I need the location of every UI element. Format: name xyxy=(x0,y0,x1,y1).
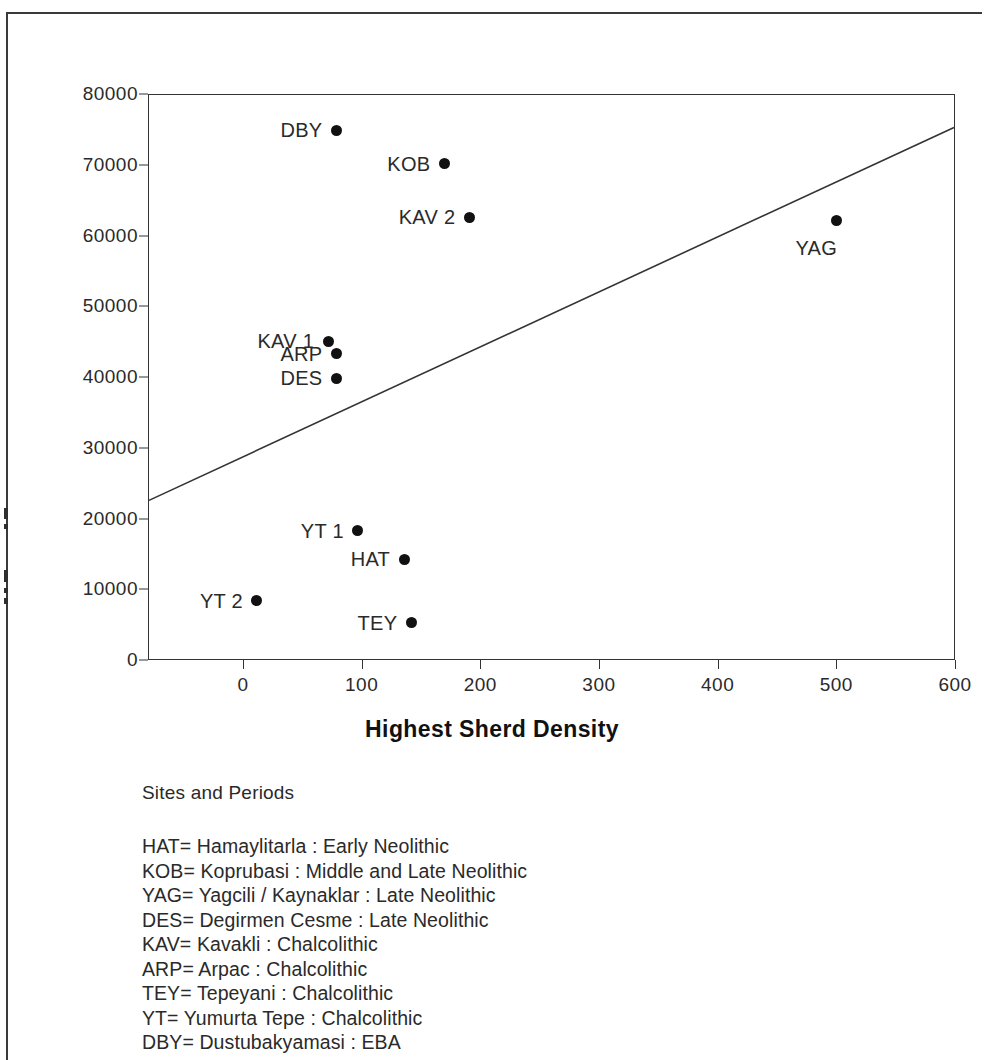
x-axis-title: Highest Sherd Density xyxy=(0,716,984,743)
data-point-label: TEY xyxy=(357,611,397,634)
data-point[interactable] xyxy=(323,336,334,347)
y-axis-tick-mark xyxy=(139,94,148,95)
y-axis-tick-label: 80000 xyxy=(83,83,138,105)
x-axis-tick-mark xyxy=(599,660,600,669)
y-axis-tick-label: 70000 xyxy=(83,154,138,176)
data-point[interactable] xyxy=(464,212,475,223)
data-point-label: YT 1 xyxy=(301,519,344,542)
legend-entry: KOB= Koprubasi : Middle and Late Neolith… xyxy=(142,859,842,884)
y-axis-tick-mark xyxy=(139,235,148,236)
y-axis-tick-label: 40000 xyxy=(83,366,138,388)
scatter-plot-figure: 0100002000030000400005000060000700008000… xyxy=(0,0,984,1060)
legend-entry: TEY= Tepeyani : Chalcolithic xyxy=(142,981,842,1006)
x-axis-tick-label: 400 xyxy=(701,674,734,696)
y-axis-tick-label: 50000 xyxy=(83,295,138,317)
plot-area: DBYKOBKAV 2YAGKAV 1ARPDESYT 1HATYT 2TEY xyxy=(148,94,955,660)
y-axis-tick-label: 0 xyxy=(127,649,138,671)
legend-entry: DES= Degirmen Cesme : Late Neolithic xyxy=(142,908,842,933)
y-axis-tick-label: 20000 xyxy=(83,508,138,530)
data-point-label: DES xyxy=(280,367,322,390)
data-point-label: ARP xyxy=(280,342,322,365)
x-axis-tick-label: 500 xyxy=(820,674,853,696)
x-axis-tick-mark xyxy=(718,660,719,669)
trendline xyxy=(149,95,954,659)
data-point-label: YAG xyxy=(795,236,837,259)
y-axis-tick-mark xyxy=(139,447,148,448)
x-axis-tick-label: 100 xyxy=(345,674,378,696)
legend-entry: YT= Yumurta Tepe : Chalcolithic xyxy=(142,1006,842,1031)
legend-entry: KAV= Kavakli : Chalcolithic xyxy=(142,932,842,957)
x-axis-tick-label: 600 xyxy=(938,674,971,696)
y-axis-tick-mark xyxy=(139,377,148,378)
y-axis-tick-mark xyxy=(139,164,148,165)
y-axis-tick-mark xyxy=(139,589,148,590)
y-axis-tick-label: 10000 xyxy=(83,578,138,600)
x-axis: 0100200300400500600 xyxy=(148,660,955,700)
y-axis-tick-mark xyxy=(139,306,148,307)
data-point-label: HAT xyxy=(351,548,390,571)
data-point-label: YT 2 xyxy=(200,589,243,612)
data-point-label: KOB xyxy=(387,152,430,175)
legend-entry: HAT= Hamaylitarla : Early Neolithic xyxy=(142,834,842,859)
data-point[interactable] xyxy=(831,215,842,226)
data-point[interactable] xyxy=(399,554,410,565)
legend-title: Sites and Periods xyxy=(142,782,842,804)
x-axis-tick-label: 0 xyxy=(237,674,248,696)
y-axis-tick-label: 30000 xyxy=(83,437,138,459)
legend-entry: ARP= Arpac : Chalcolithic xyxy=(142,957,842,982)
data-point[interactable] xyxy=(331,373,342,384)
y-axis-tick-label: 60000 xyxy=(83,225,138,247)
data-point-label: DBY xyxy=(280,119,322,142)
x-axis-tick-mark xyxy=(836,660,837,669)
y-axis-tick-labels: 0100002000030000400005000060000700008000… xyxy=(62,94,138,660)
x-axis-tick-mark xyxy=(243,660,244,669)
x-axis-tick-mark xyxy=(362,660,363,669)
legend-entry: DBY= Dustubakyamasi : EBA xyxy=(142,1030,842,1055)
data-point[interactable] xyxy=(406,617,417,628)
x-axis-tick-label: 200 xyxy=(464,674,497,696)
data-point-label: KAV 2 xyxy=(399,206,456,229)
x-axis-tick-mark xyxy=(955,660,956,669)
x-axis-tick-label: 300 xyxy=(582,674,615,696)
y-axis-tick-mark xyxy=(139,660,148,661)
legend-entry-list: HAT= Hamaylitarla : Early NeolithicKOB= … xyxy=(142,834,842,1055)
x-axis-tick-mark xyxy=(480,660,481,669)
legend: Sites and Periods HAT= Hamaylitarla : Ea… xyxy=(142,782,842,1055)
y-axis-tick-mark xyxy=(139,518,148,519)
legend-entry: YAG= Yagcili / Kaynaklar : Late Neolithi… xyxy=(142,883,842,908)
data-point[interactable] xyxy=(331,125,342,136)
